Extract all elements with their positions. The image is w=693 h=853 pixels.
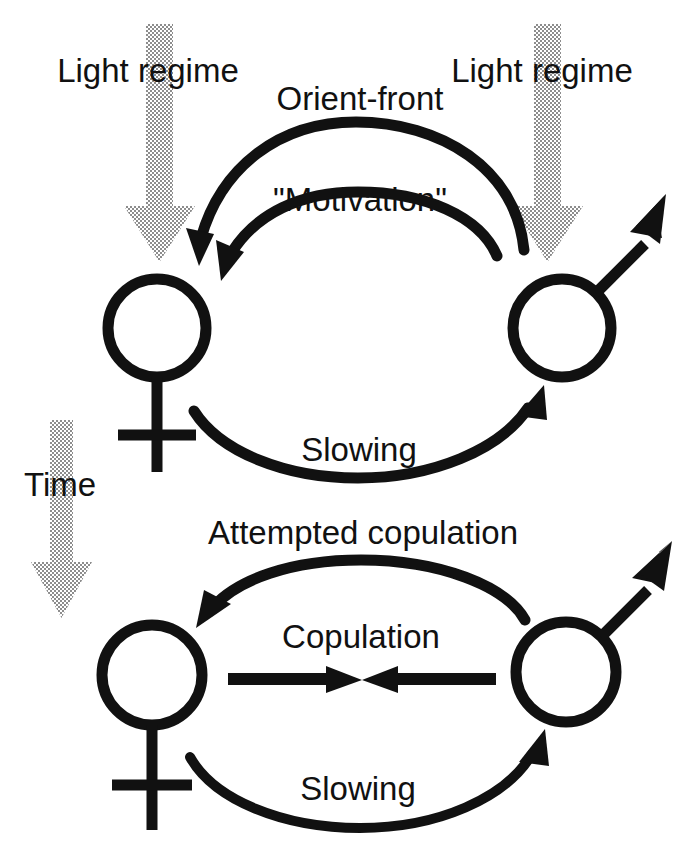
slowing-bottom-label: Slowing	[300, 770, 416, 807]
canvas-background	[0, 0, 693, 853]
time-label: Time	[24, 466, 96, 503]
orient-front-label: Orient-front	[277, 80, 444, 117]
attempted-copulation-label: Attempted copulation	[208, 514, 518, 551]
behaviour-diagram: Light regime Light regime Time Orient-fr…	[0, 0, 693, 853]
light-regime-right-label: Light regime	[451, 52, 633, 89]
light-regime-left-label: Light regime	[57, 52, 239, 89]
copulation-label: Copulation	[282, 618, 440, 655]
slowing-top-label: Slowing	[301, 431, 417, 468]
motivation-label: "Motivation"	[273, 181, 447, 218]
